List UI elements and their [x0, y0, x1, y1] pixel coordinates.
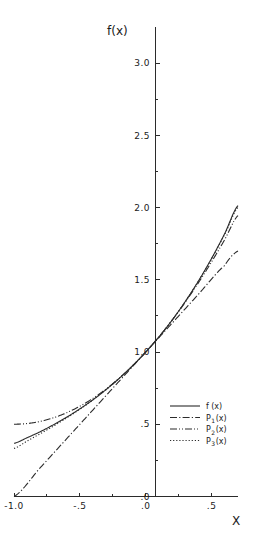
x-tick-label: -.5 [73, 501, 86, 511]
y-tick-label: 3.0 [134, 58, 150, 68]
y-tick-label: 2.5 [134, 131, 150, 141]
legend-label-suffix: (x) [216, 414, 227, 423]
legend-label-suffix: (x) [216, 437, 227, 446]
chart-legend: f(x)P1(x)P2(x)P3(x) [170, 402, 227, 447]
legend-label-suffix: (x) [216, 425, 227, 434]
x-tick-label: .5 [207, 501, 217, 511]
y-tick-label: 1.5 [134, 275, 150, 285]
y-axis-title: f(x) [107, 24, 128, 38]
x-axis-ticks: -1.0-.5.0.5 [4, 493, 216, 512]
chart-figure: .0.51.01.52.02.53.0 -1.0-.5.0.5 f(x) X f… [0, 0, 262, 538]
curve-fx [14, 206, 238, 444]
x-tick-label: .0 [141, 501, 151, 511]
y-tick-label: 2.0 [134, 203, 150, 213]
y-tick-label: .5 [140, 419, 150, 429]
curve-p1x [14, 251, 238, 497]
x-tick-label: -1.0 [4, 501, 24, 511]
legend-label-subscript: 1 [211, 417, 215, 424]
legend-label-suffix: (x) [211, 402, 222, 411]
exponential-taylor-plot: .0.51.01.52.02.53.0 -1.0-.5.0.5 f(x) X f… [0, 0, 262, 538]
curve-p3x [14, 207, 238, 448]
legend-label-subscript: 2 [211, 429, 215, 436]
x-axis-title: X [232, 514, 240, 528]
curve-p2x [14, 216, 238, 425]
curve-group [14, 206, 238, 497]
legend-label: f [206, 402, 209, 411]
legend-label-subscript: 3 [211, 440, 215, 447]
